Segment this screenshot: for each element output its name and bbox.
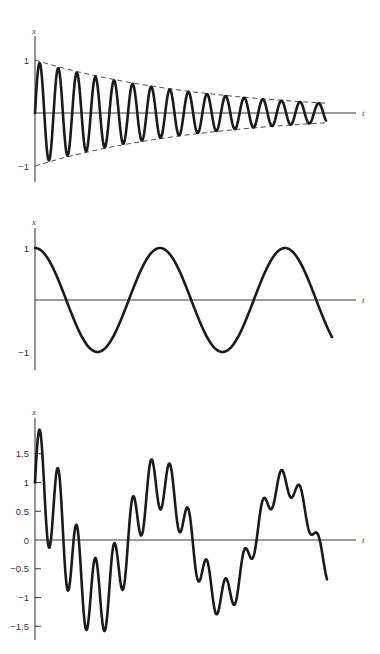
y-tick-labels: 1−1	[18, 243, 29, 358]
y-axis-label: x	[31, 217, 36, 227]
t-axis-label: t	[362, 295, 365, 305]
y-tick-label: −1	[18, 592, 29, 603]
y-tick-label: 1	[24, 477, 29, 488]
y-tick-label: −1.5	[10, 621, 29, 632]
y-tick-label: −1	[18, 161, 29, 172]
y-tick-labels: 1−1	[18, 55, 29, 172]
plot-damped-oscillation: x t 1−1	[18, 26, 365, 182]
y-tick-label: 0	[24, 535, 29, 546]
y-tick-label: −0.5	[10, 563, 29, 574]
y-axis-label: x	[31, 407, 36, 417]
y-tick-label: −1	[18, 347, 29, 358]
damped-sine-curve	[35, 63, 326, 160]
plot-superposition: x t 1.510.50−0.5−1−1.5	[10, 407, 365, 640]
t-axis-label: t	[362, 535, 365, 545]
y-tick-label: 1.5	[16, 448, 29, 459]
figure-three-oscillation-plots: x t 1−1 x t 1−1 x t 1.510.50−0.5−1−1.5	[0, 0, 380, 654]
plot-undamped-oscillation: x t 1−1	[18, 217, 365, 370]
y-tick-label: 0.5	[16, 506, 29, 517]
t-axis-label: t	[362, 108, 365, 118]
y-axis-label: x	[31, 26, 36, 36]
y-tick-label: 1	[24, 243, 29, 254]
superposition-curve	[35, 430, 327, 631]
y-tick-label: 1	[24, 55, 29, 66]
